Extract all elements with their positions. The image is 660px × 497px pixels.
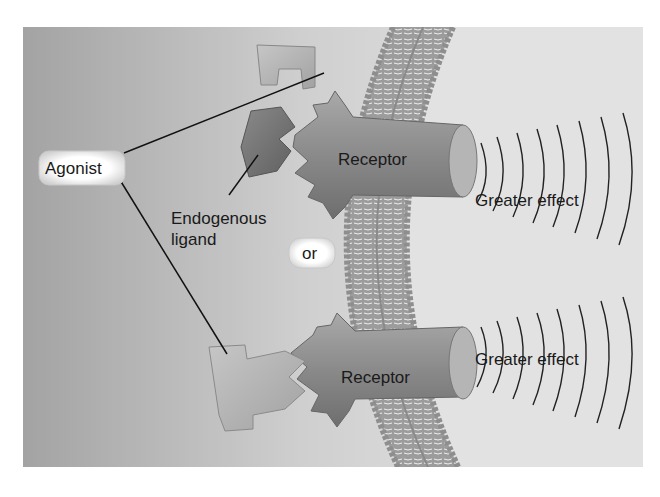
agonist-label-box: Agonist (39, 151, 125, 185)
or-label-box: or (289, 238, 335, 268)
agonist-label: Agonist (45, 159, 102, 178)
agonist-receptor-diagram: Receptor Receptor Greater effect Greater… (23, 27, 643, 467)
diagram-panel: Receptor Receptor Greater effect Greater… (23, 27, 643, 467)
or-label: or (302, 244, 317, 263)
cell-interior (399, 27, 643, 467)
receptor-bottom-label: Receptor (341, 368, 410, 387)
effect-top-label: Greater effect (475, 191, 579, 210)
endogenous-ligand-label-line1: Endogenous (171, 209, 266, 228)
effect-bottom-label: Greater effect (475, 350, 579, 369)
endogenous-ligand-label-line2: ligand (171, 230, 216, 249)
receptor-top-label: Receptor (338, 150, 407, 169)
